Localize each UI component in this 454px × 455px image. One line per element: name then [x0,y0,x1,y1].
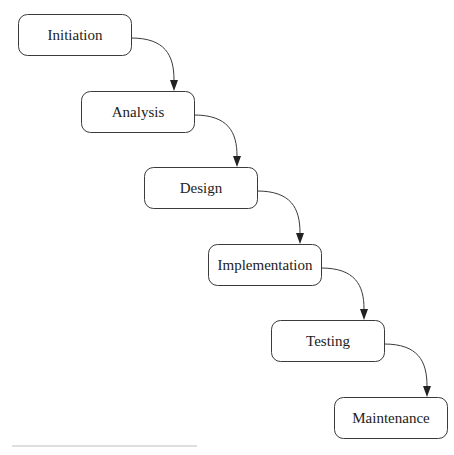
edge-analysis-design [194,115,237,156]
waterfall-diagram: Initiation Analysis Design Implementatio… [0,0,454,455]
edge-design-implementation [257,191,300,233]
edge-implementation-testing [321,268,364,309]
edge-testing-maintenance [384,344,427,386]
arrowhead-icon [233,156,241,167]
node-label: Initiation [48,27,103,43]
node-testing: Testing [272,321,385,362]
node-label: Implementation [218,257,313,273]
node-design: Design [145,168,258,209]
node-label: Testing [306,333,350,349]
node-label: Design [180,180,223,196]
node-analysis: Analysis [82,92,195,133]
arrowhead-icon [296,233,304,244]
arrowhead-icon [423,386,431,397]
node-implementation: Implementation [209,245,322,286]
node-maintenance: Maintenance [335,398,448,439]
node-label: Analysis [112,104,165,120]
edge-initiation-analysis [131,38,174,80]
arrowhead-icon [360,309,368,320]
node-label: Maintenance [352,410,430,426]
arrowhead-icon [170,80,178,91]
node-initiation: Initiation [19,15,132,56]
